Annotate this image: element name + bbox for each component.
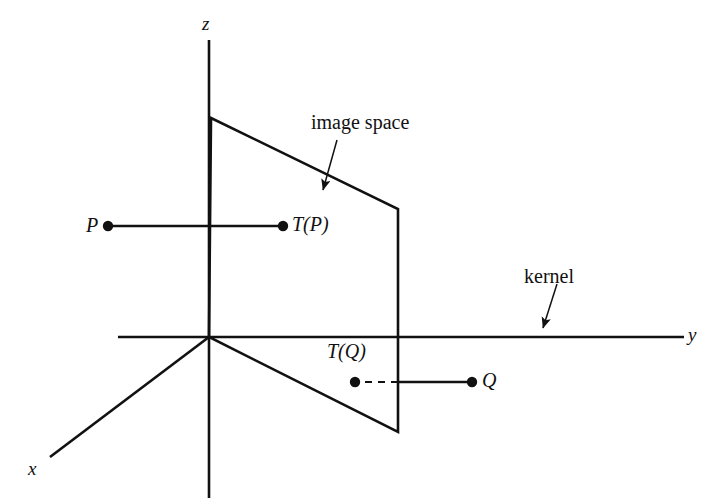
x-axis-label: x: [28, 459, 36, 478]
point-Q-dot: [467, 377, 477, 387]
z-axis-label: z: [202, 14, 209, 33]
kernel-annotation-label: kernel: [524, 266, 574, 286]
point-P-dot: [103, 221, 113, 231]
point-Q-label: Q: [482, 370, 496, 390]
y-axis-label: y: [688, 325, 696, 344]
x-axis-line: [50, 337, 209, 457]
point-T-of-Q-dot: [350, 377, 360, 387]
figure-canvas: z y x P T(P) T(Q) Q image space kernel: [0, 0, 709, 498]
point-T-of-P-label: T(P): [292, 214, 329, 234]
point-T-of-P-dot: [278, 221, 288, 231]
point-T-of-Q-label: T(Q): [327, 341, 366, 361]
kernel-arrow: [543, 284, 557, 328]
image-space-annotation-label: image space: [311, 112, 409, 132]
point-P-label: P: [86, 215, 98, 235]
diagram-svg: [0, 0, 709, 498]
image-space-plane: [209, 118, 398, 432]
image-space-arrow: [323, 140, 337, 190]
